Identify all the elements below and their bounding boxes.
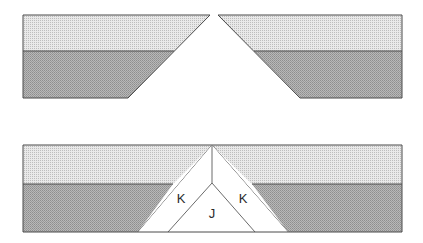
figure-root: K K J — [0, 0, 423, 243]
unit-label-k-left: K — [177, 191, 186, 206]
lower-panel-wedge-fill: K K J — [23, 145, 402, 232]
unit-label-k-right: K — [239, 191, 248, 206]
geologic-cross-section-diagram: K K J — [0, 0, 423, 243]
unit-label-j: J — [209, 206, 216, 221]
